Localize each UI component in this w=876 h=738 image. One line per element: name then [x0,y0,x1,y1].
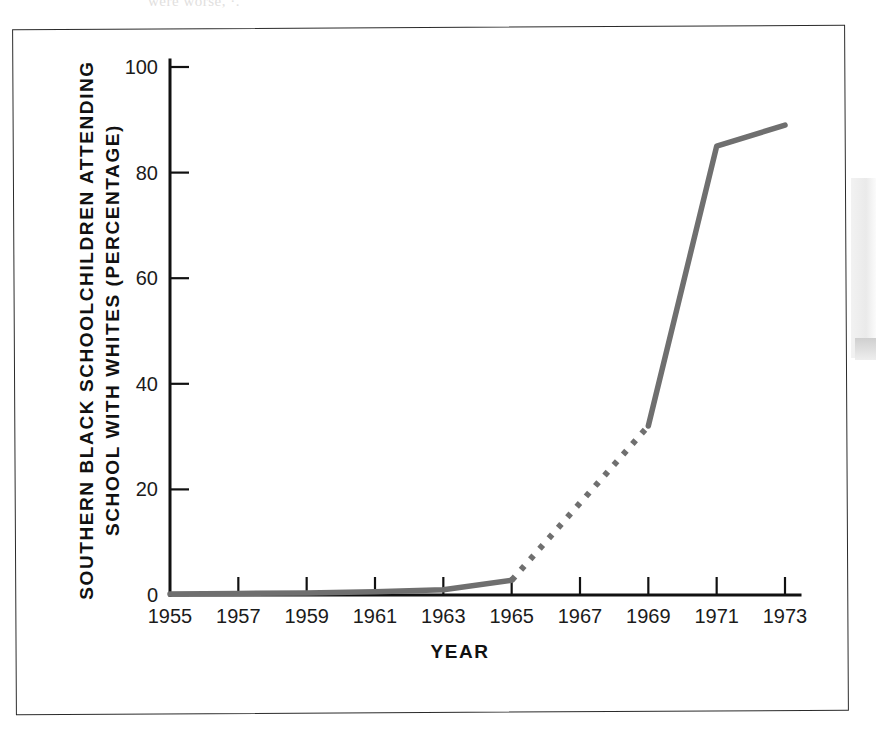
y-tick-label: 80 [136,162,158,184]
x-tick-label: 1973 [763,605,808,627]
x-tick-label: 1961 [353,605,398,627]
x-axis-title: YEAR [430,641,489,662]
x-tick-label: 1971 [694,605,739,627]
x-tick-label: 1963 [421,605,466,627]
line-chart-svg: SOUTHERN BLACK SCHOOLCHILDREN ATTENDING … [0,0,876,738]
data-line-solid [170,580,512,594]
y-axis-title-line1: SOUTHERN BLACK SCHOOLCHILDREN ATTENDING [76,60,97,600]
figure-page: were worse, ·. SOUTHERN BLACK SCHOOLCHIL… [0,0,876,738]
data-line-solid [648,125,785,426]
chart-plot-area: SOUTHERN BLACK SCHOOLCHILDREN ATTENDING … [0,0,876,738]
y-axis-title-line2: SCHOOL WITH WHITES (PERCENTAGE) [102,124,123,536]
x-tick-label: 1967 [558,605,603,627]
x-tick-label: 1965 [489,605,534,627]
y-tick-label: 0 [147,584,158,606]
y-tick-label: 100 [125,56,158,78]
x-tick-label: 1955 [148,605,193,627]
y-axis-ticks: 020406080100 [125,56,189,606]
data-series-group [170,125,785,594]
y-tick-label: 60 [136,267,158,289]
data-line-dotted [512,426,649,580]
y-tick-label: 20 [136,478,158,500]
x-tick-label: 1957 [216,605,261,627]
x-tick-label: 1959 [284,605,329,627]
x-tick-label: 1969 [626,605,671,627]
y-tick-label: 40 [136,373,158,395]
